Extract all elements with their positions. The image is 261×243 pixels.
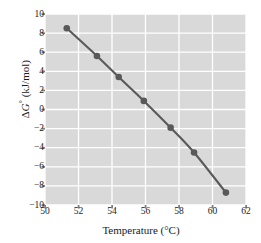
data-point xyxy=(141,98,148,105)
x-tick-label: 54 xyxy=(97,207,127,217)
y-tick-label: −6 xyxy=(18,162,44,172)
x-tick-label: 62 xyxy=(231,207,261,217)
x-axis-tick-labels: 50525456586062 xyxy=(0,207,261,221)
data-point xyxy=(223,189,230,196)
chart-figure: 1086420−2−4−6−8−10 50525456586062 ΔG° (k… xyxy=(0,0,261,243)
y-tick-label: −8 xyxy=(18,181,44,191)
x-axis-title: Temperature (°C) xyxy=(45,224,237,236)
data-point xyxy=(191,149,198,156)
y-axis-title-delta: Δ xyxy=(19,112,31,119)
x-tick-label: 60 xyxy=(198,207,228,217)
data-point xyxy=(115,74,122,81)
x-tick-label: 56 xyxy=(131,207,161,217)
y-axis-title-degree: ° xyxy=(17,100,27,103)
y-tick-label: 10 xyxy=(18,10,44,20)
x-tick-label: 58 xyxy=(164,207,194,217)
x-tick-label: 52 xyxy=(64,207,94,217)
y-axis-title-symbol: G xyxy=(19,104,31,112)
data-point xyxy=(94,53,101,60)
data-point xyxy=(63,25,70,32)
y-axis-title: ΔG° (kJ/mol) xyxy=(17,19,32,159)
data-point xyxy=(167,124,174,131)
x-tick-label: 50 xyxy=(30,207,60,217)
y-axis-title-units: (kJ/mol) xyxy=(19,60,31,100)
